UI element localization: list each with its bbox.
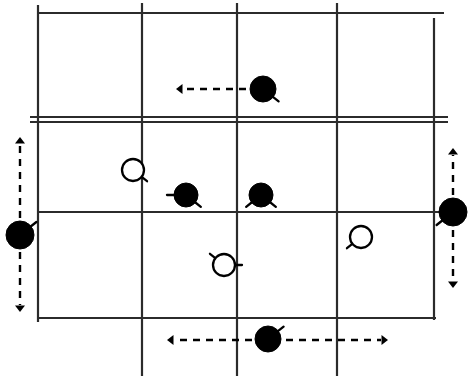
token-filled-center-right-body[interactable]: [249, 183, 273, 207]
diagram-stage: [0, 0, 473, 380]
token-right-edge-body[interactable]: [439, 198, 467, 226]
token-top-filled-body[interactable]: [250, 76, 276, 102]
token-open-upper-left-body[interactable]: [122, 159, 144, 181]
token-open-right-body[interactable]: [350, 226, 372, 248]
token-filled-center-left-body[interactable]: [174, 183, 198, 207]
token-bottom-body[interactable]: [255, 326, 281, 352]
token-left-edge-body[interactable]: [6, 221, 34, 249]
diagram-canvas: [0, 0, 473, 380]
token-open-center-low-body[interactable]: [213, 254, 235, 276]
